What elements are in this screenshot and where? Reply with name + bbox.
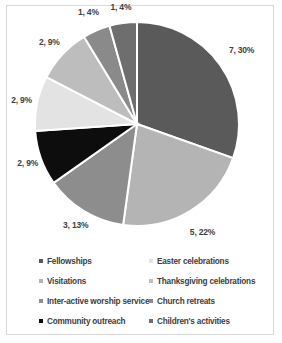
legend-swatch-icon	[149, 319, 153, 323]
legend-label: Community outreach	[47, 317, 125, 326]
legend-label: Inter-active worship service	[47, 297, 149, 306]
pie-chart-frame: 7, 30%5, 22%3, 13%2, 9%2, 9%2, 9%1, 4%1,…	[6, 5, 274, 335]
legend-swatch-icon	[149, 299, 153, 303]
legend-label: Thanksgiving celebrations	[157, 277, 255, 286]
legend-swatch-icon	[149, 259, 153, 263]
chart-legend: FellowshipsEaster celebrationsVisitation…	[7, 247, 275, 335]
legend-swatch-icon	[149, 279, 153, 283]
legend-label: Church retreats	[157, 297, 215, 306]
legend-label: Visitations	[47, 277, 86, 286]
slice-data-label: 2, 9%	[11, 95, 32, 105]
legend-swatch-icon	[39, 299, 43, 303]
legend-label: Fellowships	[47, 257, 92, 266]
slice-data-label: 2, 9%	[39, 37, 60, 47]
legend-item[interactable]: Church retreats	[149, 297, 271, 306]
slice-data-label: 3, 13%	[63, 220, 88, 230]
slice-data-label: 1, 4%	[111, 2, 132, 12]
slice-data-label: 5, 22%	[190, 227, 215, 237]
legend-label: Easter celebrations	[157, 257, 229, 266]
legend-item[interactable]: Visitations	[39, 277, 147, 286]
legend-swatch-icon	[39, 319, 43, 323]
legend-label: Children's activities	[157, 317, 230, 326]
slice-data-label: 2, 9%	[17, 158, 38, 168]
legend-item[interactable]: Thanksgiving celebrations	[149, 277, 271, 286]
legend-swatch-icon	[39, 279, 43, 283]
legend-item[interactable]: Easter celebrations	[149, 257, 271, 266]
legend-item[interactable]: Community outreach	[39, 317, 147, 326]
slice-data-label: 7, 30%	[229, 45, 254, 55]
legend-item[interactable]: Children's activities	[149, 317, 271, 326]
legend-swatch-icon	[39, 259, 43, 263]
pie-plot-area: 7, 30%5, 22%3, 13%2, 9%2, 9%2, 9%1, 4%1,…	[7, 6, 275, 246]
legend-item[interactable]: Inter-active worship service	[39, 297, 147, 306]
slice-data-label: 1, 4%	[78, 7, 99, 17]
legend-item[interactable]: Fellowships	[39, 257, 147, 266]
